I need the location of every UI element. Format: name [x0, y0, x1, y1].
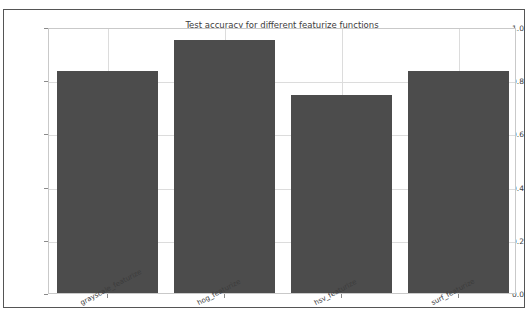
bar[interactable] — [57, 71, 158, 293]
bar[interactable] — [408, 71, 509, 293]
x-axis-tick-mark — [224, 294, 225, 298]
plot-area — [48, 28, 516, 294]
x-axis-tick-mark — [107, 294, 108, 298]
bar[interactable] — [174, 40, 275, 293]
y-axis-tick-mark — [44, 294, 48, 295]
bar[interactable] — [291, 95, 392, 293]
figure-frame: Test accuracy for different featurize fu… — [3, 9, 525, 308]
x-axis-tick-mark — [341, 294, 342, 298]
cropped-text-sliver: · · · · · · · · · · — [0, 0, 529, 9]
x-axis-tick-mark — [458, 294, 459, 298]
cropped-text-fragment: · · · · · · · · · · — [70, 0, 126, 3]
